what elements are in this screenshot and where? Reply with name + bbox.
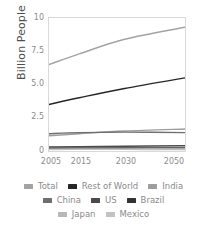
legend-label: Mexico [120,210,150,219]
legend-label: Rest of World [82,182,138,191]
legend-label: Japan [72,210,96,219]
legend-row: JapanMexico [0,207,207,221]
y-tick-label: 10 [18,14,44,22]
legend-item-us[interactable]: US [91,196,117,205]
legend-item-mexico[interactable]: Mexico [106,210,150,219]
legend-item-japan[interactable]: Japan [58,210,96,219]
y-tick-label: 5.0 [18,80,44,88]
legend-row: ChinaUSBrazil [0,193,207,207]
legend-swatch-icon [24,184,33,189]
chart-legend: TotalRest of WorldIndiaChinaUSBrazilJapa… [0,179,207,221]
y-tick-label: 0 [18,147,44,155]
legend-item-china[interactable]: China [43,196,81,205]
y-tick-label: 2.5 [18,113,44,121]
legend-item-india[interactable]: India [148,182,183,191]
series-line-china [49,132,185,134]
x-tick-label: 2005 [39,158,63,166]
legend-item-total[interactable]: Total [24,182,58,191]
plot-area [48,17,186,152]
legend-swatch-icon [43,198,52,203]
x-tick-label: 2050 [162,158,186,166]
series-line-us [49,146,185,147]
legend-item-brazil[interactable]: Brazil [127,196,165,205]
legend-swatch-icon [91,198,100,203]
legend-label: Total [38,182,58,191]
legend-label: India [162,182,183,191]
population-projection-chart: Billion People 107.55.02.50 200520152030… [0,0,207,232]
y-tick-label: 7.5 [18,47,44,55]
series-line-mexico [49,149,185,150]
series-lines [49,18,185,151]
x-tick-label: 2030 [114,158,138,166]
series-line-total [49,27,185,64]
legend-swatch-icon [127,198,136,203]
legend-swatch-icon [58,212,67,217]
legend-row: TotalRest of WorldIndia [0,179,207,193]
legend-item-rest-of-world[interactable]: Rest of World [68,182,138,191]
legend-label: Brazil [141,196,165,205]
x-tick-label: 2015 [69,158,93,166]
series-line-rest-of-world [49,78,185,105]
legend-swatch-icon [148,184,157,189]
legend-label: China [57,196,81,205]
legend-swatch-icon [68,184,77,189]
legend-swatch-icon [106,212,115,217]
legend-label: US [105,196,117,205]
